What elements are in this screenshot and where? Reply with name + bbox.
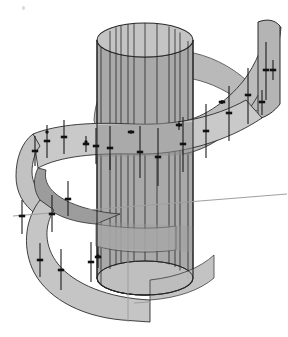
data-point-dot <box>220 100 223 103</box>
overlap-shade-lower <box>97 222 193 252</box>
data-point-dot <box>84 140 87 143</box>
figure-canvas <box>0 0 288 337</box>
data-point-dot <box>129 130 132 133</box>
cylinder <box>97 23 193 295</box>
ruling-marker <box>128 130 134 133</box>
data-point-dot <box>96 254 99 257</box>
helicoid-surface-figure <box>0 0 288 337</box>
scan-speck <box>22 6 25 10</box>
data-point-dot <box>177 123 180 126</box>
ruling-marker <box>19 200 25 234</box>
data-point-dot <box>45 130 48 133</box>
ruling-marker <box>88 242 94 282</box>
